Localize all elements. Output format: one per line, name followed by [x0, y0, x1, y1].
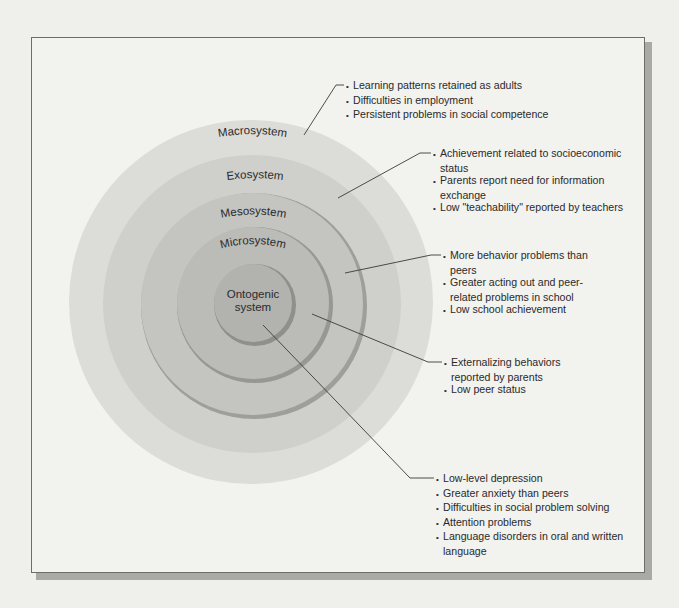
callout-item: Greater acting out and peer-related prob…	[443, 276, 603, 303]
callout-item: More behavior problems than peers	[443, 249, 603, 276]
macrosystem-callout: Learning patterns retained as adults Dif…	[346, 79, 626, 123]
macrosystem-leader-line	[304, 85, 344, 135]
callout-item: Low school achievement	[443, 303, 603, 318]
callout-item: Language disorders in oral and written l…	[436, 530, 636, 557]
callout-item: Parents report need for information exch…	[433, 174, 623, 201]
callout-item: Learning patterns retained as adults	[346, 79, 626, 94]
callout-item: Greater anxiety than peers	[436, 487, 636, 502]
ontogenic-label-line1: Ontogenic	[227, 288, 280, 300]
callout-item: Persistent problems in social competence	[346, 108, 626, 123]
callout-item: Low peer status	[444, 383, 584, 398]
ontogenic-label-line2: system	[235, 301, 271, 313]
callout-item: Difficulties in employment	[346, 94, 626, 109]
callout-item: Difficulties in social problem solving	[436, 501, 636, 516]
callout-item: Attention problems	[436, 516, 636, 531]
callout-item: Achievement related to socioeconomic sta…	[433, 147, 623, 174]
callout-item: Externalizing behaviors reported by pare…	[444, 356, 584, 383]
microsystem-callout: Externalizing behaviors reported by pare…	[444, 356, 584, 398]
mesosystem-callout: More behavior problems than peers Greate…	[443, 249, 603, 318]
callout-item: Low "teachability" reported by teachers	[433, 201, 623, 216]
ontogenic-callout: Low-level depression Greater anxiety tha…	[436, 472, 636, 558]
callout-item: Low-level depression	[436, 472, 636, 487]
exosystem-callout: Achievement related to socioeconomic sta…	[433, 147, 623, 216]
exosystem-label: Exosystem	[226, 168, 284, 182]
